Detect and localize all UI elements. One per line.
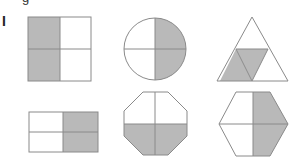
square-shape bbox=[28, 17, 91, 81]
triangle-shape bbox=[217, 17, 288, 81]
octagon-shape bbox=[124, 92, 187, 155]
shapes-canvas bbox=[0, 0, 299, 165]
fraction-shapes-figure: g I bbox=[0, 0, 299, 165]
rectangle-shape bbox=[29, 112, 98, 152]
hexagon-shape bbox=[219, 92, 288, 156]
circle-shape bbox=[124, 18, 186, 80]
